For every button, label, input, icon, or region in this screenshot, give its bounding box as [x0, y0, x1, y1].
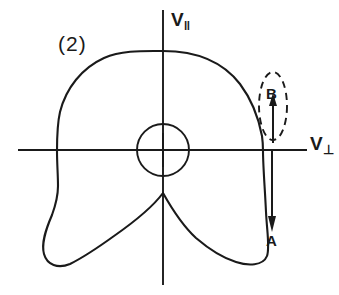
panel-number-label: (2) — [58, 33, 87, 54]
contour-left-arc — [57, 51, 163, 186]
contour-curve-group — [43, 51, 268, 266]
point-a-label: A — [266, 233, 277, 248]
v-perp-subscript: ⊥ — [323, 142, 334, 157]
figure-container: (2) V‖ V⊥ B A — [0, 0, 339, 295]
arrow-a-head — [268, 216, 276, 232]
point-b-label: B — [266, 86, 277, 101]
contour-right-lobe — [163, 151, 268, 264]
velocity-space-diagram — [0, 0, 339, 295]
contour-top-right-arc — [163, 51, 263, 151]
v-parallel-subscript: ‖ — [184, 18, 190, 33]
v-parallel-main: V — [171, 9, 184, 30]
vertical-axis-label: V‖ — [171, 10, 190, 32]
contour-left-lobe-lower — [43, 186, 163, 266]
horizontal-axis-label: V⊥ — [310, 134, 333, 156]
v-perp-main: V — [310, 133, 323, 154]
